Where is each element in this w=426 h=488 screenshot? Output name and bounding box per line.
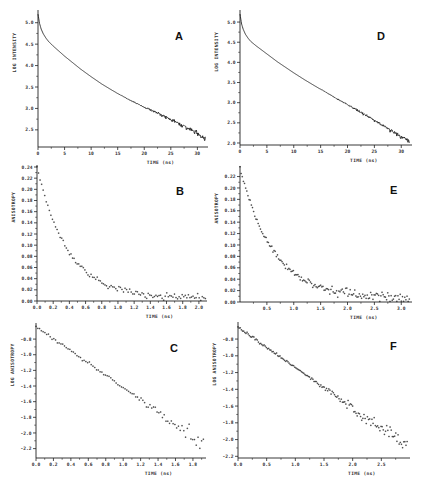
x-tick-label: 20 xyxy=(141,151,147,156)
y-tick-label: 0.20 xyxy=(224,186,235,191)
panel-label: E xyxy=(390,184,397,196)
y-tick-label: -2.2 xyxy=(222,454,233,459)
x-tick-label: 0.4 xyxy=(65,305,74,310)
y-tick-label: 2.0 xyxy=(227,141,236,146)
figure-canvas: 2.53.03.54.04.55.0051015202530TIME (ns)L… xyxy=(0,0,426,488)
x-tick-label: 25 xyxy=(168,151,174,156)
x-tick-label: 2.0 xyxy=(349,462,358,467)
x-tick-label: 0.6 xyxy=(84,462,93,467)
x-tick-label: 1.2 xyxy=(136,462,145,467)
y-tick-label: 0.14 xyxy=(224,220,235,225)
panel-f-log-anisotropy: -0.8-1.0-1.2-1.4-1.6-1.8-2.0-2.20.00.51.… xyxy=(212,322,410,476)
x-tick-label: 1.0 xyxy=(290,306,299,311)
y-tick-label: 3.0 xyxy=(227,100,236,105)
y-axis-title: ANISOTROPY xyxy=(11,192,16,223)
x-tick-label: 0.2 xyxy=(49,462,58,467)
x-tick-label: 1.5 xyxy=(316,306,325,311)
x-tick-label: 1.0 xyxy=(114,305,123,310)
x-tick-label: 1.0 xyxy=(291,462,300,467)
panel-label: D xyxy=(377,30,385,42)
x-tick-label: 2.0 xyxy=(195,305,204,310)
x-tick-label: 0.4 xyxy=(67,462,76,467)
y-tick-label: 0.24 xyxy=(21,165,32,170)
x-tick-label: 0.0 xyxy=(234,462,243,467)
x-tick-label: 15 xyxy=(115,151,121,156)
y-tick-label: -0.8 xyxy=(20,337,31,342)
x-tick-label: 10 xyxy=(88,151,94,156)
x-tick-label: 1.6 xyxy=(162,305,171,310)
x-tick-label: 2.0 xyxy=(343,306,352,311)
y-tick-label: 0.22 xyxy=(21,176,32,181)
y-tick-label: 0.00 xyxy=(224,300,235,305)
x-tick-label: 30 xyxy=(398,149,404,154)
y-axis-title: LOG ANISOTROPY xyxy=(212,343,217,386)
y-tick-label: 0.02 xyxy=(21,287,32,292)
y-tick-label: -1.8 xyxy=(20,415,31,420)
y-tick-label: 0.08 xyxy=(224,254,235,259)
y-tick-label: 4.5 xyxy=(25,42,34,47)
y-tick-label: 0.10 xyxy=(224,243,235,248)
y-tick-label: -1.2 xyxy=(222,370,233,375)
x-tick-label: 1.0 xyxy=(119,462,128,467)
x-axis-title: TIME (ns) xyxy=(350,158,378,163)
y-tick-label: 5.0 xyxy=(227,20,236,25)
y-tick-label: 0.16 xyxy=(21,209,32,214)
y-tick-label: 0.20 xyxy=(21,187,32,192)
x-axis-title: TIME (ns) xyxy=(145,471,173,476)
y-tick-label: -1.0 xyxy=(20,352,31,357)
y-tick-label: -1.0 xyxy=(222,353,233,358)
x-tick-label: 1.5 xyxy=(320,462,329,467)
x-tick-label: 2.5 xyxy=(377,462,386,467)
y-tick-label: 0.04 xyxy=(224,277,235,282)
x-tick-label: 25 xyxy=(372,149,378,154)
y-axis-title: LOG ANISOTROPY xyxy=(10,343,15,386)
x-tick-label: 0.2 xyxy=(49,305,58,310)
x-tick-label: 0.6 xyxy=(81,305,90,310)
y-tick-label: 3.5 xyxy=(227,80,236,85)
y-tick-label: 0.02 xyxy=(224,288,235,293)
x-tick-label: 0 xyxy=(239,149,242,154)
panel-label: C xyxy=(170,342,178,354)
y-axis-title: LOG INTENSITY xyxy=(12,33,17,73)
y-tick-label: -1.4 xyxy=(222,387,233,392)
x-tick-label: 0 xyxy=(37,151,40,156)
x-axis-title: TIME (ns) xyxy=(147,160,175,165)
x-tick-label: 2.5 xyxy=(370,306,379,311)
y-tick-label: -1.8 xyxy=(222,420,233,425)
y-tick-label: 2.5 xyxy=(227,120,236,125)
panel-d-log-intensity-decay: 2.02.53.03.54.04.55.0051015202530TIME (n… xyxy=(214,10,412,163)
y-tick-label: -2.0 xyxy=(20,431,31,436)
x-tick-label: 0.0 xyxy=(33,305,42,310)
y-tick-label: 4.0 xyxy=(227,60,236,65)
y-tick-label: 0.22 xyxy=(224,174,235,179)
y-tick-label: 0.00 xyxy=(21,299,32,304)
x-tick-label: 20 xyxy=(345,149,351,154)
panel-label: F xyxy=(390,340,397,352)
x-tick-label: 3.0 xyxy=(397,306,406,311)
x-axis-title: TIME (ns) xyxy=(348,471,376,476)
panel-c-log-anisotropy: -0.8-1.0-1.2-1.4-1.6-1.8-2.0-2.20.00.20.… xyxy=(10,323,206,476)
panel-b-anisotropy-decay: 0.000.020.040.060.080.100.120.140.160.18… xyxy=(11,165,207,319)
y-tick-label: 0.06 xyxy=(21,265,32,270)
x-tick-label: 0.8 xyxy=(98,305,107,310)
y-tick-label: 0.12 xyxy=(21,232,32,237)
y-tick-label: -1.6 xyxy=(20,399,31,404)
x-tick-label: 0.5 xyxy=(263,306,272,311)
y-tick-label: -1.2 xyxy=(20,368,31,373)
y-tick-label: 0.04 xyxy=(21,276,32,281)
y-tick-label: 4.5 xyxy=(227,40,236,45)
x-tick-label: 0.0 xyxy=(32,462,41,467)
panel-label: B xyxy=(176,185,184,197)
x-tick-label: 5 xyxy=(265,149,268,154)
x-tick-label: 1.4 xyxy=(154,462,163,467)
x-tick-label: 0.5 xyxy=(263,462,272,467)
y-tick-label: -1.6 xyxy=(222,404,233,409)
y-tick-label: -2.0 xyxy=(222,437,233,442)
y-tick-label: 0.14 xyxy=(21,220,32,225)
y-tick-label: 0.12 xyxy=(224,231,235,236)
y-axis-title: LOG INTENSITY xyxy=(214,32,219,72)
y-tick-label: 5.0 xyxy=(25,20,34,25)
y-tick-label: 0.16 xyxy=(224,208,235,213)
y-tick-label: 4.0 xyxy=(25,63,34,68)
panel-a-log-intensity-decay: 2.53.03.54.04.55.0051015202530TIME (ns)L… xyxy=(12,10,208,165)
